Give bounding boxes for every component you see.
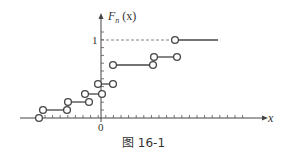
- open-circle-marker: [99, 91, 106, 98]
- open-circle-marker: [65, 99, 72, 106]
- x-axis-label: x: [267, 111, 274, 125]
- open-circle-marker: [82, 91, 89, 98]
- open-circle-marker: [110, 62, 117, 69]
- open-circle-marker: [150, 62, 157, 69]
- open-circle-marker: [172, 37, 179, 44]
- y-axis-arrow-icon: [99, 13, 104, 19]
- open-circle-marker: [40, 107, 47, 114]
- open-circle-marker: [86, 99, 93, 106]
- figure-caption: 图 16-1: [0, 133, 287, 150]
- y-axis-label: Fn(x): [107, 9, 136, 25]
- open-circle-marker: [95, 81, 102, 88]
- origin-label: 0: [98, 121, 104, 133]
- open-circle-marker: [151, 54, 158, 61]
- step-segments: [36, 37, 218, 122]
- open-circle-marker: [36, 115, 43, 122]
- open-circle-marker: [110, 81, 117, 88]
- y-tick-one-label: 1: [92, 34, 98, 46]
- open-circle-marker: [174, 54, 181, 61]
- open-circle-marker: [64, 107, 71, 114]
